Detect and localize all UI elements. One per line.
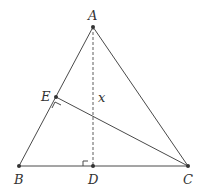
point-b	[17, 164, 21, 168]
geometry-diagram: A B C D E x	[0, 0, 205, 193]
triangle-figure: A B C D E x	[0, 0, 205, 193]
point-e	[54, 95, 58, 99]
point-a	[91, 25, 95, 29]
right-angle-marker-e	[52, 102, 61, 108]
point-d	[91, 164, 95, 168]
label-e: E	[40, 89, 51, 104]
label-d: D	[87, 172, 99, 187]
label-c: C	[183, 172, 193, 187]
label-a: A	[87, 8, 97, 23]
label-x-length: x	[98, 90, 106, 105]
label-b: B	[13, 172, 24, 187]
right-angle-marker-d	[83, 161, 88, 166]
segment-ec	[56, 97, 188, 166]
point-c	[186, 164, 190, 168]
segment-ac	[93, 27, 188, 166]
